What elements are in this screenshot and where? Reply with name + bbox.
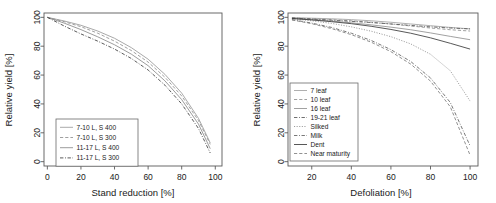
right-plot-svg: 20406080100020406080100 7 leaf10 leaf16 … — [248, 0, 496, 203]
right-legend: 7 leaf10 leaf16 leaf19-21 leafSilkedMilk… — [290, 83, 358, 161]
y-tick-label: 0 — [32, 159, 42, 164]
legend-label-1: 10 leaf — [311, 96, 331, 103]
legend-label-4: Silked — [311, 123, 329, 130]
chart-panel-right: 20406080100020406080100 7 leaf10 leaf16 … — [248, 0, 496, 203]
left-y-axis-title: Relative yield [%] — [3, 54, 14, 127]
x-tick-label: 60 — [143, 172, 153, 182]
x-tick-label: 20 — [76, 172, 86, 182]
chart-panel-left: 020406080100020406080100 7-10 L, S 4007-… — [0, 0, 248, 203]
legend-label-2: 16 leaf — [311, 105, 331, 112]
figure-container: 020406080100020406080100 7-10 L, S 4007-… — [0, 0, 496, 203]
y-tick-label: 100 — [32, 10, 42, 24]
legend-label-6: Dent — [311, 141, 325, 148]
legend-label-3: 19-21 leaf — [311, 114, 340, 121]
legend-label-0: 7 leaf — [311, 87, 327, 94]
y-tick-label: 100 — [276, 10, 286, 24]
y-tick-label: 80 — [276, 41, 286, 51]
y-tick-label: 0 — [276, 159, 286, 164]
left-x-axis-title: Stand reduction [%] — [92, 187, 175, 198]
x-tick-label: 100 — [463, 172, 477, 182]
legend-label-3: 11-17 L, S 300 — [77, 154, 120, 161]
x-tick-label: 0 — [45, 172, 50, 182]
x-tick-label: 80 — [177, 172, 187, 182]
right-y-axis-title: Relative yield [%] — [251, 54, 262, 127]
x-tick-label: 60 — [386, 172, 396, 182]
x-tick-label: 100 — [208, 172, 222, 182]
x-tick-label: 40 — [347, 172, 357, 182]
left-legend: 7-10 L, S 4007-10 L, S 30011-17 L, S 400… — [56, 119, 138, 166]
y-tick-label: 80 — [32, 41, 42, 51]
legend-label-5: Milk — [311, 132, 323, 139]
y-tick-label: 60 — [32, 70, 42, 80]
x-tick-label: 80 — [426, 172, 436, 182]
legend-label-1: 7-10 L, S 300 — [77, 134, 117, 141]
x-tick-label: 40 — [110, 172, 120, 182]
left-plot-svg: 020406080100020406080100 7-10 L, S 4007-… — [0, 0, 248, 203]
y-tick-label: 60 — [276, 70, 286, 80]
right-x-axis-title: Defoliation [%] — [350, 187, 411, 198]
legend-label-0: 7-10 L, S 400 — [77, 124, 117, 131]
y-tick-label: 40 — [32, 99, 42, 109]
legend-label-2: 11-17 L, S 400 — [77, 144, 120, 151]
y-tick-label: 20 — [276, 128, 286, 138]
y-tick-label: 20 — [32, 128, 42, 138]
x-tick-label: 20 — [307, 172, 317, 182]
y-tick-label: 40 — [276, 99, 286, 109]
legend-label-7: Near maturity — [311, 150, 351, 158]
